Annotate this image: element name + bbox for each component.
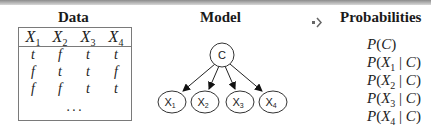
prob-x1: P(X1 | C) <box>367 54 421 73</box>
prob-x2: P(X2 | C) <box>367 72 421 91</box>
prob-x4: P(X4 | C) <box>367 108 421 127</box>
prob-x3: P(X3 | C) <box>367 90 421 109</box>
prob-c: P(C) <box>367 36 396 53</box>
probabilities-title: Probabilities <box>340 9 421 26</box>
svg-text:C: C <box>218 49 226 61</box>
arrow-right-icon <box>312 18 321 27</box>
